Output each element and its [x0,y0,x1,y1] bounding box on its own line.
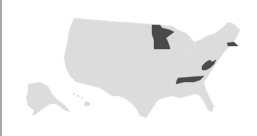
state-massachusetts [227,42,238,46]
state-hawaii [73,93,90,107]
us-map [0,0,257,136]
state-alaska [26,82,70,116]
